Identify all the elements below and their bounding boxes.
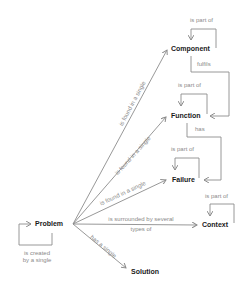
- label-failure-self: is part of: [171, 146, 194, 153]
- label-problem-context-line1: is surrounded by several: [99, 216, 183, 223]
- edge-problem-self: [19, 224, 52, 245]
- edge-function-self: [181, 94, 207, 114]
- node-context: Context: [202, 221, 228, 228]
- label-component-function: fulfils: [197, 61, 211, 68]
- label-problem-self: is created by a single: [20, 250, 54, 263]
- label-context-self: is part of: [205, 193, 228, 200]
- label-problem-self-line2: by a single: [20, 257, 54, 264]
- node-failure: Failure: [172, 176, 195, 183]
- node-function: Function: [171, 112, 201, 119]
- node-solution: Solution: [131, 268, 159, 275]
- label-problem-self-line1: is created: [20, 250, 54, 257]
- diagram-edges: [0, 0, 248, 291]
- edge-failure-self: [175, 158, 199, 178]
- node-problem: Problem: [35, 220, 63, 227]
- label-function-failure: has: [195, 126, 205, 133]
- label-problem-context-line2: types of: [99, 226, 183, 233]
- label-component-self: is part of: [190, 17, 213, 24]
- node-component: Component: [171, 45, 210, 52]
- label-problem-context: is surrounded by several types of: [99, 216, 183, 232]
- label-function-self: is part of: [178, 82, 201, 89]
